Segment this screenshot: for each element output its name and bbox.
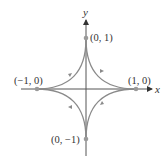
arc-lower-left: [36, 89, 86, 139]
point-0-neg1: [84, 137, 89, 142]
arc-lower-right: [86, 89, 136, 139]
point-neg1-0: [35, 87, 40, 92]
point-label-0-1: (0, 1): [90, 32, 113, 44]
diagram-svg: y x (0, 1) (1, 0) (−1, 0) (0, −1): [0, 0, 166, 160]
point-0-1: [84, 36, 89, 41]
point-label-1-0: (1, 0): [128, 75, 151, 87]
point-label-0-neg1: (0, −1): [51, 134, 80, 146]
y-axis-label: y: [82, 6, 88, 18]
direction-arrow-icon: [68, 73, 72, 77]
direction-arrow-icon: [100, 101, 104, 105]
x-axis-label: x: [154, 83, 160, 95]
astroid-diagram: y x (0, 1) (1, 0) (−1, 0) (0, −1): [0, 0, 166, 160]
point-1-0: [134, 87, 139, 92]
direction-arrow-icon: [100, 69, 104, 73]
point-label-neg1-0: (−1, 0): [14, 75, 43, 87]
direction-arrow-icon: [68, 105, 72, 109]
arc-upper-left: [36, 39, 86, 89]
